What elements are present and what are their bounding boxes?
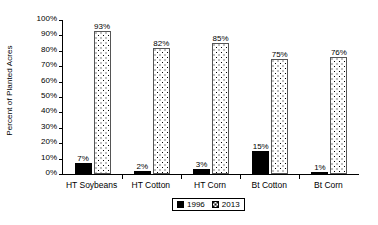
bar-2013-bt-cotton[interactable]: 75% — [271, 59, 288, 175]
y-axis-tick-label: 40% — [41, 106, 57, 115]
bar-value-label: 93% — [94, 22, 110, 31]
y-axis-title-text: Percent of Planted Acres — [5, 45, 14, 135]
bar-group: 7%93% — [63, 20, 122, 174]
chart-legend: 19962013 — [172, 198, 245, 211]
legend-entry-2013[interactable]: 2013 — [212, 200, 240, 209]
bar-group-bars: 2%82% — [122, 20, 181, 174]
x-axis-label-bt-corn: Bt Corn — [299, 180, 358, 190]
x-axis-labels: HT SoybeansHT CottonHT CornBt CottonBt C… — [62, 180, 358, 190]
bar-group-bars: 3%85% — [181, 20, 240, 174]
x-axis-label-ht-cotton: HT Cotton — [121, 180, 180, 190]
bar-1996-bt-cotton[interactable]: 15% — [252, 151, 269, 174]
x-axis-label-ht-corn: HT Corn — [180, 180, 239, 190]
bar-2013-bt-corn[interactable]: 76% — [330, 57, 347, 174]
bar-value-label: 85% — [212, 34, 228, 43]
bar-value-label: 82% — [153, 39, 169, 48]
solid-black-square-icon — [177, 201, 184, 208]
x-axis-label-bt-cotton: Bt Cotton — [240, 180, 299, 190]
bar-value-label: 75% — [272, 50, 288, 59]
bar-value-label: 15% — [253, 142, 269, 151]
x-axis-label-ht-soybeans: HT Soybeans — [62, 180, 121, 190]
y-axis-title: Percent of Planted Acres — [0, 0, 18, 180]
bar-chart: Percent of Planted Acres 100%90%80%70%60… — [0, 0, 378, 225]
y-axis-tick-label: 10% — [41, 153, 57, 162]
x-axis-tick-mark — [122, 174, 123, 179]
y-axis-tick-label: 60% — [41, 76, 57, 85]
x-axis-tick-mark — [240, 174, 241, 179]
legend-entry-label: 2013 — [222, 200, 240, 209]
bar-value-label: 76% — [331, 48, 347, 57]
bar-group: 2%82% — [122, 20, 181, 174]
bar-2013-ht-cotton[interactable]: 82% — [153, 48, 170, 174]
bar-2013-ht-soybeans[interactable]: 93% — [94, 31, 111, 174]
bar-groups: 7%93%2%82%3%85%15%75%1%76% — [63, 20, 359, 174]
y-axis-tick-label: 80% — [41, 45, 57, 54]
x-axis-tick-mark — [299, 174, 300, 179]
y-axis-tick-label: 0% — [45, 168, 57, 177]
bar-group: 1%76% — [300, 20, 359, 174]
bar-group-bars: 7%93% — [63, 20, 122, 174]
y-axis-tick-mark — [59, 174, 63, 175]
bar-1996-ht-cotton[interactable]: 2% — [134, 171, 151, 174]
y-axis-tick-label: 50% — [41, 91, 57, 100]
plot-area: 100%90%80%70%60%50%40%30%20%10%0% 7%93%2… — [62, 20, 359, 175]
bar-1996-ht-soybeans[interactable]: 7% — [75, 163, 92, 174]
y-axis-tick-label: 70% — [41, 60, 57, 69]
bar-group: 15%75% — [241, 20, 300, 174]
bar-2013-ht-corn[interactable]: 85% — [212, 43, 229, 174]
bar-value-label: 3% — [196, 160, 208, 169]
y-axis-tick-label: 30% — [41, 122, 57, 131]
y-axis-tick-label: 20% — [41, 137, 57, 146]
bar-value-label: 2% — [137, 162, 149, 171]
bar-group-bars: 1%76% — [300, 20, 359, 174]
legend-entry-1996[interactable]: 1996 — [177, 200, 205, 209]
bar-value-label: 7% — [77, 154, 89, 163]
dotted-square-icon — [212, 201, 219, 208]
bar-group: 3%85% — [181, 20, 240, 174]
bar-group-bars: 15%75% — [241, 20, 300, 174]
bar-1996-ht-corn[interactable]: 3% — [193, 169, 210, 174]
bar-1996-bt-corn[interactable]: 1% — [311, 172, 328, 174]
legend-entry-label: 1996 — [187, 200, 205, 209]
y-axis-tick-label: 90% — [41, 29, 57, 38]
bar-value-label: 1% — [314, 163, 326, 172]
y-axis-tick-label: 100% — [37, 14, 57, 23]
x-axis-tick-mark — [181, 174, 182, 179]
